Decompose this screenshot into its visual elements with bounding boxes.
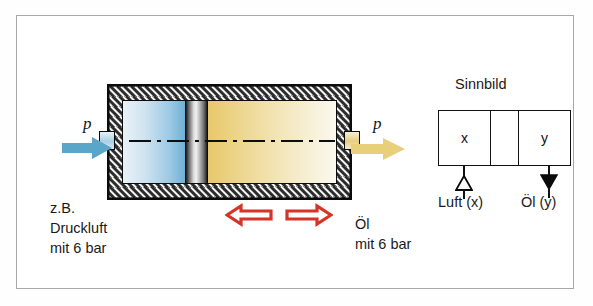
left-caption-line-3: mit 6 bar [50,238,107,258]
left-caption-line-1: z.B. [50,198,107,218]
right-caption-line-1: Öl [355,214,411,234]
right-caption-line-2: mit 6 bar [355,234,411,254]
center-axis-line [129,140,335,142]
air-chamber [123,101,185,183]
symbol-cell-y: y [519,111,570,165]
symbol-box: x y [438,110,571,166]
force-arrow-left-icon [225,203,273,227]
pressure-intensifier-cylinder [107,84,352,200]
left-caption-block: z.B. Druckluft mit 6 bar [50,198,107,258]
oil-port-label: Öl (y) [521,194,556,210]
symbol-cell-middle [491,111,519,165]
right-caption-block: Öl mit 6 bar [355,214,411,254]
figure-frame: p p z.B. Druckluft mit 6 bar Öl mit 6 ba… [16,15,574,289]
piston [185,101,208,183]
force-arrow-right-icon [285,203,333,227]
inlet-pressure-label: p [83,114,92,134]
left-caption-line-2: Druckluft [50,218,107,238]
cylinder-bore [122,100,337,184]
air-inlet-flow-arrow-icon [62,137,112,159]
air-port-hollow-triangle-icon [455,175,473,191]
symbol-cell-x: x [439,111,491,165]
figure-root: p p z.B. Druckluft mit 6 bar Öl mit 6 ba… [0,0,593,306]
symbol-diagram: Sinnbild x y Luft (x) Öl (y) [433,76,583,216]
oil-outlet-flow-arrow-icon [351,138,405,160]
oil-chamber [208,101,336,183]
air-port-label: Luft (x) [438,194,483,210]
outlet-pressure-label: p [373,114,382,134]
symbol-title: Sinnbild [455,76,507,92]
